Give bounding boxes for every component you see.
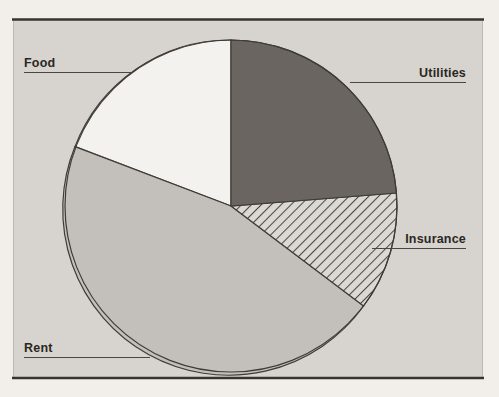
pie-label-food: Food bbox=[24, 56, 55, 70]
pie-chart-canvas: Food Utilities Insurance Rent bbox=[0, 0, 499, 397]
pie-chart-figure: Food Utilities Insurance Rent bbox=[0, 0, 499, 397]
pie-label-rent: Rent bbox=[24, 341, 53, 355]
pie-label-insurance: Insurance bbox=[405, 232, 466, 246]
pie-label-utilities: Utilities bbox=[419, 66, 466, 80]
